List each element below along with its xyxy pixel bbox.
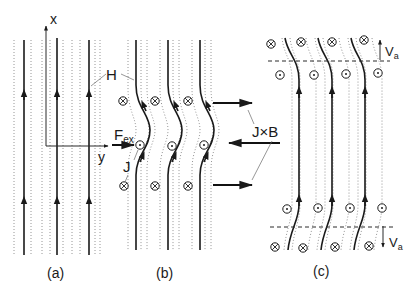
- field-label-H: H: [106, 66, 117, 83]
- j-leader-up: [134, 150, 138, 160]
- out-of-page-icon: [346, 204, 354, 212]
- out-of-page-icon: [378, 204, 386, 212]
- y-axis-label: y: [98, 149, 105, 165]
- flux-line-diagram: x y (a) H: [0, 0, 410, 295]
- caption-b: (b): [156, 265, 173, 281]
- into-page-icon: [331, 243, 339, 251]
- h-leader-b: [121, 74, 134, 80]
- into-page-icon: [365, 242, 373, 250]
- velocity-up-group: Va: [380, 40, 399, 61]
- into-page-icon: [271, 243, 279, 251]
- lorentz-force-group: J×B: [213, 103, 280, 185]
- into-page-icon: [360, 36, 368, 44]
- panel-c-top-out: [276, 69, 382, 79]
- current-label-J: J: [123, 158, 131, 175]
- into-page-icon: [184, 182, 192, 190]
- out-of-page-icon: [276, 71, 284, 79]
- velocity-down-group: Va: [383, 226, 403, 252]
- x-axis-label: x: [50, 11, 57, 27]
- into-page-icon: [328, 38, 336, 46]
- out-of-page-icon: [136, 141, 144, 149]
- panel-a: x y (a): [14, 11, 108, 281]
- velocity-label-bottom: Va: [389, 235, 403, 252]
- out-of-page-icon: [168, 142, 176, 150]
- caption-c: (c): [313, 263, 329, 279]
- j-leader-down: [125, 175, 128, 182]
- panel-b-current-into-bottom: [120, 182, 192, 190]
- into-page-icon: [151, 97, 159, 105]
- into-page-icon: [297, 38, 305, 46]
- out-of-page-icon: [314, 204, 322, 212]
- external-force-label: Fex: [114, 126, 134, 145]
- lorentz-label: J×B: [252, 123, 278, 140]
- into-page-icon: [184, 97, 192, 105]
- out-of-page-icon: [310, 71, 318, 79]
- into-page-icon: [267, 40, 275, 48]
- into-page-icon: [119, 97, 127, 105]
- out-of-page-icon: [200, 141, 208, 149]
- into-page-icon: [151, 182, 159, 190]
- panel-c-flux-lines: [285, 38, 365, 250]
- out-of-page-icon: [342, 70, 350, 78]
- caption-a: (a): [47, 265, 64, 281]
- into-page-icon: [299, 244, 307, 252]
- velocity-label-top: Va: [385, 44, 399, 61]
- lorentz-leader-top: [248, 110, 254, 124]
- external-force-group: Fex: [112, 126, 134, 145]
- out-of-page-icon: [374, 69, 382, 77]
- into-page-icon: [120, 182, 128, 190]
- panel-c: Va Va (c): [267, 36, 403, 279]
- lorentz-leader-bottom: [252, 141, 272, 180]
- out-of-page-icon: [283, 205, 291, 213]
- coordinate-axes: x y: [46, 11, 108, 165]
- h-leader-a: [91, 74, 106, 86]
- panel-b: H Fex J (b): [91, 40, 219, 281]
